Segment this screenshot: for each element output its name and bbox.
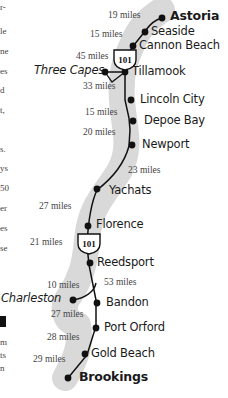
distance-label: 20 miles — [83, 128, 115, 138]
city-label-astoria: Astoria — [170, 10, 219, 23]
distance-label: 21 miles — [30, 238, 62, 248]
city-label-seaside: Seaside — [151, 26, 195, 38]
city-label-gold-beach: Gold Beach — [91, 348, 155, 360]
page-text-fragment: n — [0, 364, 5, 373]
distance-label: 19 miles — [108, 11, 140, 21]
distance-label: 45 miles — [76, 52, 108, 62]
svg-text:101: 101 — [118, 55, 132, 65]
city-label-florence: Florence — [96, 219, 143, 231]
page-text-fragment: m — [0, 338, 7, 347]
page-text-fragment: r- — [0, 3, 6, 12]
city-label-brookings: Brookings — [79, 371, 148, 384]
distance-label: 15 miles — [90, 30, 122, 40]
city-label-newport: Newport — [142, 139, 189, 151]
distance-label: 28 miles — [47, 333, 79, 343]
city-label-bandon: Bandon — [106, 297, 149, 309]
city-label-tillamook: Tillamook — [132, 66, 185, 78]
svg-text:101: 101 — [82, 239, 96, 249]
page-text-fragment: ts — [0, 351, 6, 360]
page-text-fragment: le — [0, 27, 7, 36]
distance-label: 27 miles — [51, 310, 83, 320]
page-text-fragment: er — [0, 204, 7, 213]
page-text-fragment: s. — [0, 145, 6, 154]
city-label-yachats: Yachats — [109, 185, 151, 197]
city-label-depoe-bay: Depoe Bay — [144, 115, 205, 127]
page-text-fragment: es — [0, 67, 8, 76]
city-label-port-orford: Port Orford — [104, 322, 165, 334]
distance-label: 29 miles — [33, 355, 65, 365]
city-label-reedsport: Reedsport — [97, 257, 154, 269]
distance-label: 27 miles — [39, 202, 71, 212]
city-label-lincoln-city: Lincoln City — [140, 94, 205, 106]
distance-label: 33 miles — [83, 82, 115, 92]
distance-label: 53 miles — [104, 278, 136, 288]
page-text-fragment: t, — [0, 106, 5, 115]
distance-label: 15 miles — [85, 108, 117, 118]
page-text-fragment: ys — [0, 164, 8, 173]
distance-label: 10 miles — [47, 281, 79, 291]
page-text-fragment: 50 — [0, 184, 9, 193]
page-text-fragment: es — [0, 224, 8, 233]
distance-label: 23 miles — [128, 166, 160, 176]
coast-route-map: 101 101 — [0, 0, 228, 398]
black-marker-block — [0, 316, 6, 327]
city-label-three-capes: Three Capes — [34, 65, 104, 77]
page-text-fragment: se — [0, 244, 8, 253]
city-label-cannon-beach: Cannon Beach — [139, 40, 220, 52]
page-text-fragment: ne — [0, 47, 9, 56]
city-label-charleston: Charleston — [1, 293, 61, 305]
highway-101-shield-south: 101 — [78, 234, 100, 254]
page-text-fragment: d — [0, 86, 5, 95]
